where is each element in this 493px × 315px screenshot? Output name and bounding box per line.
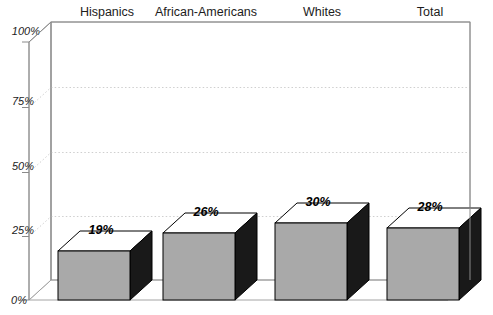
chart-container: 100% 75% 50% 25% 0% 19% 26% 30%: [0, 0, 493, 315]
category-label-african-americans: African-Americans: [155, 5, 257, 19]
category-label-total: Total: [417, 5, 443, 19]
bar-value-label-whites: 30%: [305, 195, 330, 209]
category-label-whites: Whites: [303, 5, 341, 19]
bar-front-face-hispanics: [58, 251, 130, 300]
ytick-label-25: 25%: [11, 224, 34, 236]
bar-front-face-whites: [275, 223, 347, 300]
ytick-label-75: 75%: [12, 95, 34, 107]
bar-front-face-total: [387, 228, 459, 300]
bar-value-label-hispanics: 19%: [88, 223, 113, 237]
ytick-label-50: 50%: [12, 160, 34, 172]
bar-group-total[interactable]: [387, 208, 481, 300]
bar-chart-3d: 100% 75% 50% 25% 0% 19% 26% 30%: [0, 0, 493, 315]
bar-group-african-americans[interactable]: [163, 213, 257, 300]
bar-group-whites[interactable]: [275, 203, 369, 300]
bar-front-face-african-americans: [163, 233, 235, 300]
ytick-label-0: 0%: [11, 294, 27, 306]
category-label-hispanics: Hispanics: [80, 5, 134, 19]
bar-value-label-total: 28%: [416, 200, 442, 214]
bar-value-label-african-americans: 26%: [192, 205, 218, 219]
bar-group-hispanics[interactable]: [58, 231, 152, 300]
